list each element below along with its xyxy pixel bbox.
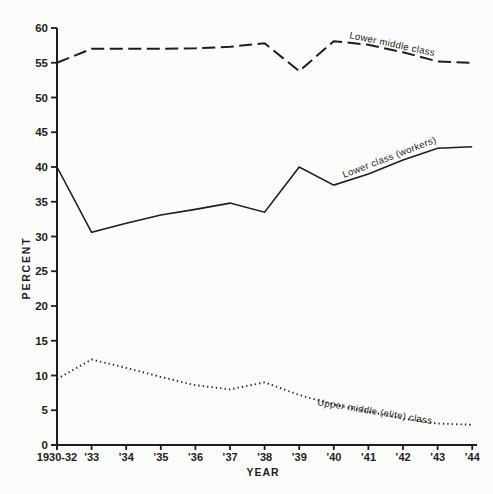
x-tick-label: ’39 [292,451,307,463]
x-tick-label: ’43 [430,451,445,463]
y-tick-label: 45 [35,126,48,138]
x-tick-label: ’38 [257,451,272,463]
y-tick-label: 40 [35,161,48,173]
x-tick-label: ’33 [84,451,99,463]
y-tick-label: 5 [42,404,49,416]
x-tick-label: ’35 [153,451,168,463]
x-tick-label: ’42 [395,451,410,463]
x-tick-label: ’44 [465,451,481,463]
x-axis-title: YEAR [246,466,279,478]
series-line-solid [57,147,472,233]
x-tick-label: ’37 [222,451,237,463]
y-tick-label: 25 [35,265,48,277]
y-tick-label: 55 [35,57,48,69]
x-tick-label: ’41 [361,451,376,463]
class-trends-line-chart: 0510152025303540455055601930-32’33’34’35… [0,0,493,494]
series-label-dotted: Upper middle (elite) class [317,396,434,426]
y-tick-label: 60 [35,22,48,34]
y-tick-label: 10 [35,370,48,382]
y-tick-label: 35 [35,196,48,208]
y-tick-label: 50 [35,92,48,104]
y-tick-label: 20 [35,300,48,312]
series-label-solid: Lower class (workers) [341,134,438,180]
x-tick-label: ’40 [326,451,341,463]
y-axis-title: PERCENT [20,237,32,300]
y-tick-label: 0 [42,439,48,451]
y-tick-label: 30 [35,231,48,243]
scanned-chart-figure: 0510152025303540455055601930-32’33’34’35… [0,0,493,494]
x-tick-label: ’36 [188,451,203,463]
x-tick-label: 1930-32 [37,451,77,463]
series-label-dashed: Lower middle class [349,29,436,58]
x-tick-label: ’34 [119,451,135,463]
y-tick-label: 15 [35,335,48,347]
